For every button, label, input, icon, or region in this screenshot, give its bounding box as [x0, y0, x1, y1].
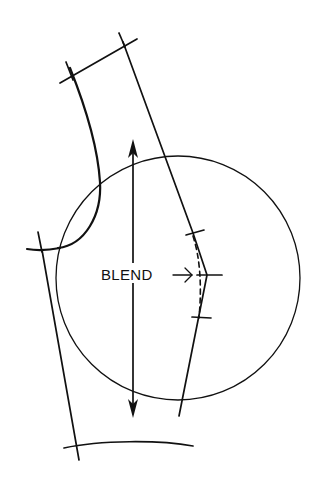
alteration-tick-lower [192, 317, 211, 318]
blend-dashed-line [193, 236, 200, 318]
hem-line [64, 442, 193, 448]
left-armhole-curve [58, 68, 100, 248]
left-underarm-seam [42, 250, 79, 460]
alteration-tick-upper [186, 230, 204, 235]
right-seam-line [123, 42, 207, 416]
sleeve-pattern-diagram: BLEND [0, 0, 328, 501]
underarm-line [27, 248, 60, 250]
underarm-tick [38, 232, 42, 252]
blend-label: BLEND [101, 266, 153, 283]
blend-pointer-arrow-icon [173, 268, 192, 282]
